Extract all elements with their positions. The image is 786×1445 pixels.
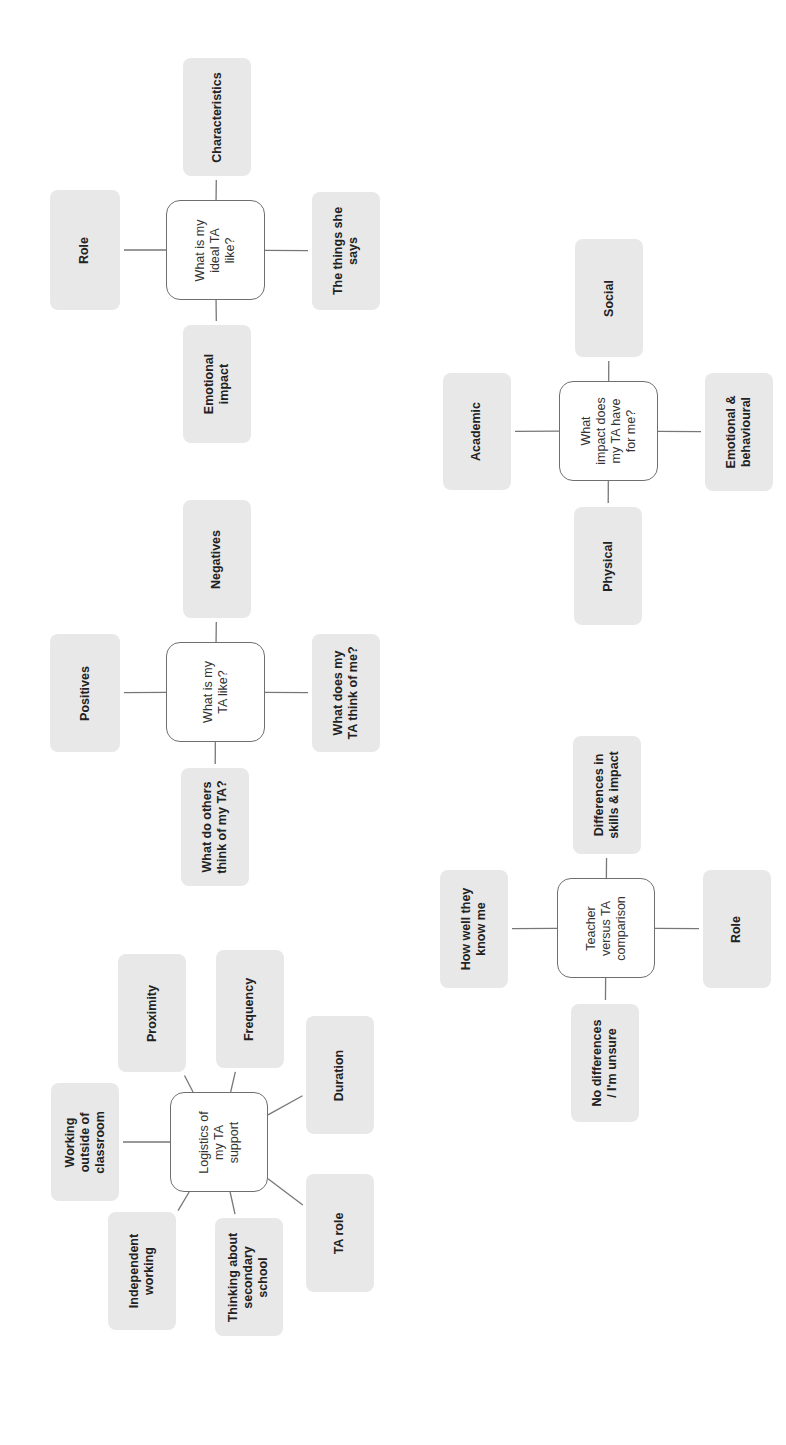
connector-logistics-1 [184, 1076, 193, 1092]
leaf-impact-1: Social [575, 239, 643, 357]
leaf-logistics-5: Thinking about secondary school [215, 1218, 283, 1336]
leaf-teacher-0: How well they know me [440, 870, 508, 988]
leaf-teacher-2-label: Role [730, 915, 745, 942]
leaf-ideal-1: Characteristics [183, 58, 251, 176]
leaf-impact-0-label: Academic [470, 402, 485, 461]
leaf-logistics-6: Independent working [108, 1212, 176, 1330]
leaf-like-1: Negatives [183, 500, 251, 618]
connector-logistics-3 [268, 1096, 303, 1115]
leaf-logistics-0: Working outside of classroom [51, 1083, 119, 1201]
leaf-impact-3: Physical [574, 507, 642, 625]
leaf-ideal-2-label: The things she says [331, 207, 361, 295]
leaf-like-0-label: Positives [77, 666, 92, 721]
leaf-teacher-3: No differences / I'm unsure [571, 1004, 639, 1122]
leaf-teacher-2: Role [703, 870, 771, 988]
leaf-logistics-4: TA role [306, 1174, 374, 1292]
leaf-logistics-3-label: Duration [332, 1049, 347, 1100]
leaf-ideal-0: Role [50, 190, 120, 310]
leaf-ideal-1-label: Characteristics [210, 72, 225, 162]
leaf-impact-2: Emotional & behavioural [705, 373, 773, 491]
leaf-logistics-1-label: Proximity [145, 985, 160, 1042]
hub-logistics: Logistics of my TA support [170, 1092, 268, 1192]
leaf-logistics-3: Duration [306, 1016, 374, 1134]
leaf-logistics-0-label: Working outside of classroom [63, 1111, 108, 1174]
hub-ideal-label: What is my ideal TA like? [193, 219, 238, 281]
leaf-logistics-4-label: TA role [332, 1212, 347, 1254]
leaf-like-2-label: What does my TA think of me? [331, 646, 361, 739]
leaf-impact-1-label: Social [601, 280, 616, 317]
leaf-logistics-1: Proximity [118, 954, 186, 1072]
leaf-teacher-1-label: Differences in skills & impact [592, 751, 622, 839]
leaf-ideal-3-label: Emotional impact [202, 354, 232, 414]
connector-logistics-4 [268, 1179, 303, 1205]
leaf-teacher-3-label: No differences / I'm unsure [590, 1020, 620, 1107]
hub-ideal: What is my ideal TA like? [166, 200, 265, 300]
leaf-impact-0: Academic [443, 373, 511, 490]
connector-logistics-6 [178, 1192, 189, 1211]
leaf-logistics-6-label: Independent working [127, 1234, 157, 1308]
leaf-like-3: What do others think of my TA? [181, 768, 249, 886]
hub-like: What is my TA like? [166, 642, 265, 742]
leaf-like-2: What does my TA think of me? [312, 634, 380, 752]
leaf-like-0: Positives [50, 634, 120, 752]
hub-teacher-label: Teacher versus TA comparison [584, 896, 629, 961]
leaf-logistics-2: Frequency [216, 950, 284, 1068]
hub-teacher: Teacher versus TA comparison [557, 878, 655, 978]
leaf-like-1-label: Negatives [210, 529, 225, 588]
connector-logistics-5 [230, 1192, 235, 1214]
leaf-ideal-3: Emotional impact [183, 325, 251, 443]
connector-logistics-2 [231, 1072, 236, 1092]
leaf-impact-2-label: Emotional & behavioural [724, 396, 754, 469]
leaf-teacher-0-label: How well they know me [459, 888, 489, 971]
hub-impact-label: What impact does my TA have for me? [579, 397, 639, 464]
hub-logistics-label: Logistics of my TA support [197, 1111, 242, 1174]
leaf-ideal-0-label: Role [78, 236, 93, 263]
leaf-ideal-2: The things she says [312, 192, 380, 310]
leaf-like-3-label: What do others think of my TA? [200, 780, 230, 874]
leaf-logistics-2-label: Frequency [243, 977, 258, 1040]
hub-like-label: What is my TA like? [201, 661, 231, 723]
leaf-impact-3-label: Physical [600, 541, 615, 592]
mind-map-canvas: What is my ideal TA like?RoleCharacteris… [0, 0, 786, 1445]
leaf-logistics-5-label: Thinking about secondary school [227, 1232, 272, 1322]
hub-impact: What impact does my TA have for me? [559, 381, 658, 481]
leaf-teacher-1: Differences in skills & impact [573, 736, 641, 854]
